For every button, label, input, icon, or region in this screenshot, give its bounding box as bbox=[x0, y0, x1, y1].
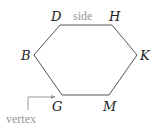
vertex-label-m: M bbox=[102, 99, 117, 114]
vertex-label-b: B bbox=[20, 48, 31, 63]
hexagon-diagram: D H K M G B side vertex bbox=[0, 0, 157, 128]
hexagon-shape bbox=[34, 25, 137, 95]
vertex-label-k: K bbox=[139, 48, 151, 63]
vertex-label-d: D bbox=[50, 9, 62, 24]
vertex-annotation: vertex bbox=[6, 112, 36, 126]
side-annotation: side bbox=[73, 9, 92, 23]
vertex-label-h: H bbox=[108, 9, 121, 24]
vertex-label-g: G bbox=[52, 99, 62, 114]
